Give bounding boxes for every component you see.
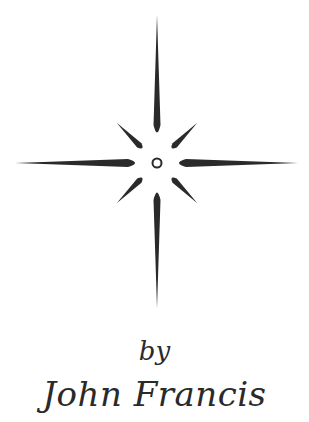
byline: by bbox=[0, 336, 309, 366]
compass-star-icon bbox=[0, 0, 309, 330]
author-name: John Francis bbox=[0, 374, 309, 414]
